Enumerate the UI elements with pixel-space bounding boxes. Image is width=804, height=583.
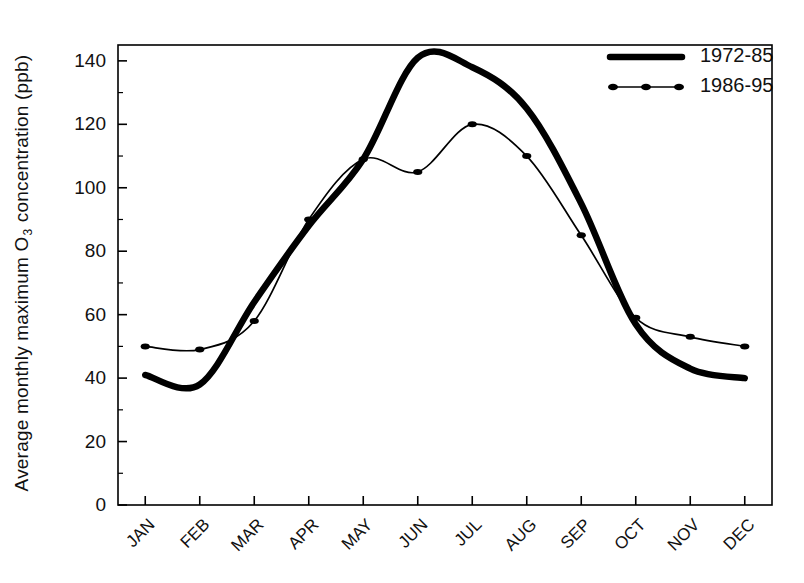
- series-line: [145, 124, 745, 351]
- legend-swatch-marker: [674, 84, 684, 90]
- series-marker: [141, 343, 150, 349]
- series-marker: [468, 121, 477, 127]
- ozone-seasonal-chart: Average monthly maximum O3 concentration…: [0, 0, 804, 583]
- series-marker: [686, 334, 695, 340]
- series-marker: [522, 153, 531, 159]
- data-series-group: [141, 51, 750, 388]
- x-axis-ticks: [145, 496, 745, 505]
- series-marker: [304, 216, 313, 222]
- series-marker: [413, 169, 422, 175]
- legend-swatch-marker: [608, 84, 618, 90]
- legend-swatches: [608, 57, 684, 90]
- series-marker: [195, 347, 204, 353]
- series-marker: [359, 156, 368, 162]
- series-marker: [250, 318, 259, 324]
- series-marker: [577, 232, 586, 238]
- plot-area: [0, 0, 804, 583]
- series-1986-95: [141, 121, 750, 352]
- legend-swatch-marker: [641, 84, 651, 90]
- series-marker: [740, 343, 749, 349]
- plot-frame-box: [118, 45, 772, 505]
- y-axis-ticks: [118, 61, 127, 505]
- series-marker: [631, 315, 640, 321]
- plot-frame: [118, 45, 772, 505]
